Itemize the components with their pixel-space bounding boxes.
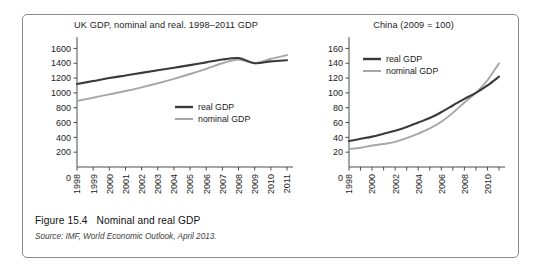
svg-text:2002: 2002 (137, 174, 147, 194)
svg-text:120: 120 (328, 73, 343, 83)
figure-frame: UK GDP, nominal and real. 1998–2011 GDP … (22, 14, 519, 258)
figure-caption-block: Figure 15.4 Nominal and real GDP Source:… (35, 215, 505, 241)
svg-text:1400: 1400 (51, 58, 71, 68)
svg-text:600: 600 (56, 118, 71, 128)
chart-china-index: China (2009 = 100) 020406080100120140160… (307, 15, 520, 211)
svg-text:40: 40 (333, 133, 343, 143)
svg-text:2004: 2004 (414, 174, 424, 194)
figure-caption-text: Nominal and real GDP (96, 215, 200, 226)
svg-text:60: 60 (333, 118, 343, 128)
svg-text:400: 400 (56, 133, 71, 143)
legend-label-nominal-gdp: nominal GDP (198, 114, 250, 124)
figure-source: Source: IMF, World Economic Outlook, Apr… (35, 232, 505, 241)
svg-text:800: 800 (56, 103, 71, 113)
chart-china-plot: 0204060801001201401601998200020022004200… (307, 15, 520, 211)
svg-text:20: 20 (333, 147, 343, 157)
svg-text:2002: 2002 (391, 174, 401, 194)
chart-uk-gdp: UK GDP, nominal and real. 1998–2011 GDP … (25, 15, 307, 211)
legend-label-nominal-gdp: nominal GDP (386, 66, 438, 76)
svg-text:160: 160 (328, 44, 343, 54)
svg-text:2000: 2000 (105, 174, 115, 194)
svg-text:2011: 2011 (282, 174, 292, 193)
svg-text:1998: 1998 (344, 174, 354, 194)
svg-text:2001: 2001 (121, 174, 131, 194)
svg-text:2010: 2010 (266, 174, 276, 194)
svg-text:1200: 1200 (51, 73, 71, 83)
svg-text:2005: 2005 (185, 174, 195, 194)
svg-text:2008: 2008 (460, 174, 470, 194)
svg-text:80: 80 (333, 103, 343, 113)
svg-text:0: 0 (338, 173, 343, 183)
svg-text:2006: 2006 (437, 174, 447, 194)
svg-text:2008: 2008 (234, 174, 244, 194)
svg-text:2004: 2004 (169, 174, 179, 194)
svg-text:2000: 2000 (367, 174, 377, 194)
svg-text:1600: 1600 (51, 44, 71, 54)
chart-uk-plot: 0200400600800100012001400160019981999200… (25, 15, 307, 211)
figure-number: Figure 15.4 (35, 215, 88, 226)
svg-text:2003: 2003 (153, 174, 163, 194)
svg-text:2009: 2009 (250, 174, 260, 194)
charts-row: UK GDP, nominal and real. 1998–2011 GDP … (23, 15, 520, 211)
svg-text:1998: 1998 (72, 174, 82, 194)
figure-caption: Figure 15.4 Nominal and real GDP (35, 215, 505, 226)
svg-text:2006: 2006 (202, 174, 212, 194)
svg-text:0: 0 (66, 173, 71, 183)
svg-text:1000: 1000 (51, 88, 71, 98)
svg-text:1999: 1999 (89, 174, 99, 194)
svg-text:2007: 2007 (218, 174, 228, 194)
series-real-gdp-line (77, 58, 287, 84)
legend-label-real-gdp: real GDP (198, 102, 234, 112)
svg-text:200: 200 (56, 147, 71, 157)
svg-text:2010: 2010 (483, 174, 493, 194)
svg-text:100: 100 (328, 88, 343, 98)
legend-label-real-gdp: real GDP (386, 54, 422, 64)
svg-text:140: 140 (328, 58, 343, 68)
